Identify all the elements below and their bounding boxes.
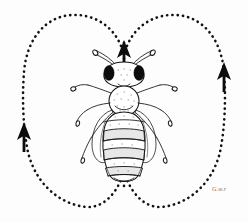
waggle-dance-figure: Honeybee waggle dance figure-eight patte… xyxy=(0,0,248,222)
figure-canvas xyxy=(0,0,248,222)
artist-signature: G.w.r xyxy=(212,186,226,192)
abdomen xyxy=(103,112,145,182)
